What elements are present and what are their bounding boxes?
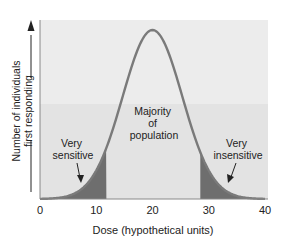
bell-curve-chart: 010203040 Dose (hypothetical units) Very… [0,0,286,240]
y-axis-label: Number of individuals first responding [4,22,40,200]
x-tick-label: 40 [259,204,271,216]
x-axis-label: Dose (hypothetical units) [92,224,213,236]
x-tick-label: 30 [203,204,215,216]
x-tick-labels: 010203040 [37,204,271,216]
x-tick-label: 10 [90,204,102,216]
y-axis-label-line2: first responding [22,61,34,162]
x-tick-label: 0 [37,204,43,216]
plot-background-upper [40,20,268,104]
y-axis-label-line1: Number of individuals [10,61,22,162]
x-tick-label: 20 [146,204,158,216]
